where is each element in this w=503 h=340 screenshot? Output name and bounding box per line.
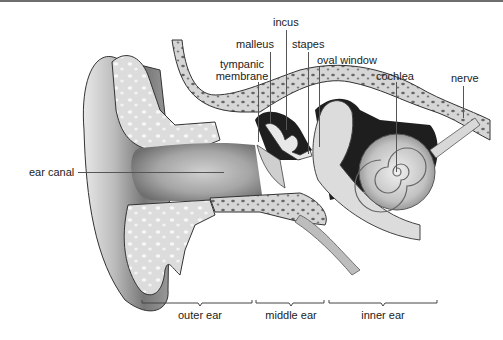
label-incus: incus xyxy=(273,16,299,28)
leader-cochlea xyxy=(396,82,397,172)
label-tympanic-line2: membrane xyxy=(210,70,274,82)
leader-incus xyxy=(286,30,287,130)
leader-nerve xyxy=(463,86,464,118)
lower-cartilage xyxy=(124,200,215,295)
region-inner-ear: inner ear xyxy=(343,309,423,321)
ear-illustration xyxy=(0,0,503,340)
leader-oval-window xyxy=(319,67,320,147)
label-tympanic-membrane: tympanic membrane xyxy=(210,58,274,82)
label-tympanic-line1: tympanic xyxy=(210,58,274,70)
leader-tympanic-membrane xyxy=(258,82,259,142)
region-braces xyxy=(142,300,437,306)
leader-stapes xyxy=(308,52,309,154)
label-stapes: stapes xyxy=(292,38,324,50)
label-cochlea: cochlea xyxy=(376,70,414,82)
eustachian-tube xyxy=(295,215,360,275)
region-outer-ear: outer ear xyxy=(160,309,240,321)
label-oval-window: oval window xyxy=(317,54,377,66)
leader-ear-canal xyxy=(78,172,224,173)
label-malleus: malleus xyxy=(236,38,274,50)
label-nerve: nerve xyxy=(451,72,479,84)
nerve-shape xyxy=(430,118,480,158)
region-middle-ear: middle ear xyxy=(254,309,328,321)
label-ear-canal: ear canal xyxy=(29,166,74,178)
